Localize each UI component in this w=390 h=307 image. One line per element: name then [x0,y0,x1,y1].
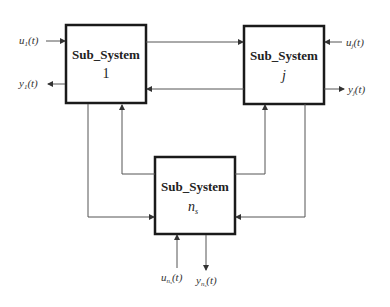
label-y1: y1(t) [18,77,38,91]
link-j-to-ns [236,104,305,217]
label-u1: u1(t) [19,34,39,48]
link-1-to-ns [88,104,154,217]
label-yns: yns(t) [195,274,217,288]
subsystem-1-index: 1 [103,66,110,81]
label-yj: yj(t) [347,83,366,97]
subsystem-1-block: Sub_System 1 [66,25,146,103]
subsystem-ns-title: Sub_System [161,179,229,194]
subsystem-j-block: Sub_System j [244,26,324,104]
link-ns-to-1 [122,105,155,174]
subsystem-interconnection-diagram: Sub_System 1 Sub_System j Sub_System ns … [0,0,390,307]
subsystem-1-title: Sub_System [72,47,140,62]
label-uj: uj(t) [346,36,364,50]
link-ns-to-j [235,105,265,174]
label-uns: uns(t) [161,271,183,285]
subsystem-j-title: Sub_System [250,48,318,63]
subsystem-ns-block: Sub_System ns [155,157,235,234]
